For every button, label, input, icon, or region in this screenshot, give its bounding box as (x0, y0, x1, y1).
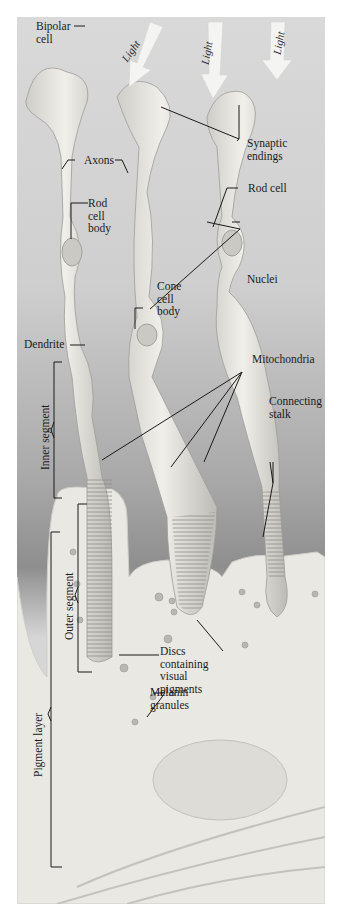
label-mitochondria: Mitochondria (252, 353, 315, 366)
label-pigment-layer: Pigment layer (32, 713, 44, 777)
label-synaptic-endings: Synaptic endings (247, 137, 287, 162)
label-outer-segment: Outer segment (63, 573, 75, 640)
label-axons: Axons (84, 154, 114, 167)
label-inner-segment: Inner segment (39, 405, 51, 470)
label-nuclei: Nuclei (247, 273, 278, 286)
label-connecting-stalk: Connecting stalk (269, 395, 322, 420)
label-rod-cell-body: Rod cell body (88, 197, 111, 235)
label-cone-cell-body: Cone cell body (157, 280, 181, 318)
label-dendrite: Dendrite (24, 338, 64, 351)
label-rod-cell: Rod cell (248, 182, 287, 195)
label-melanin-granules: Melanin granules (150, 686, 189, 711)
retina-illustration: Light Light Light Bipolar cell Synaptic … (17, 17, 325, 904)
label-bipolar-cell: Bipolar cell (36, 20, 71, 45)
